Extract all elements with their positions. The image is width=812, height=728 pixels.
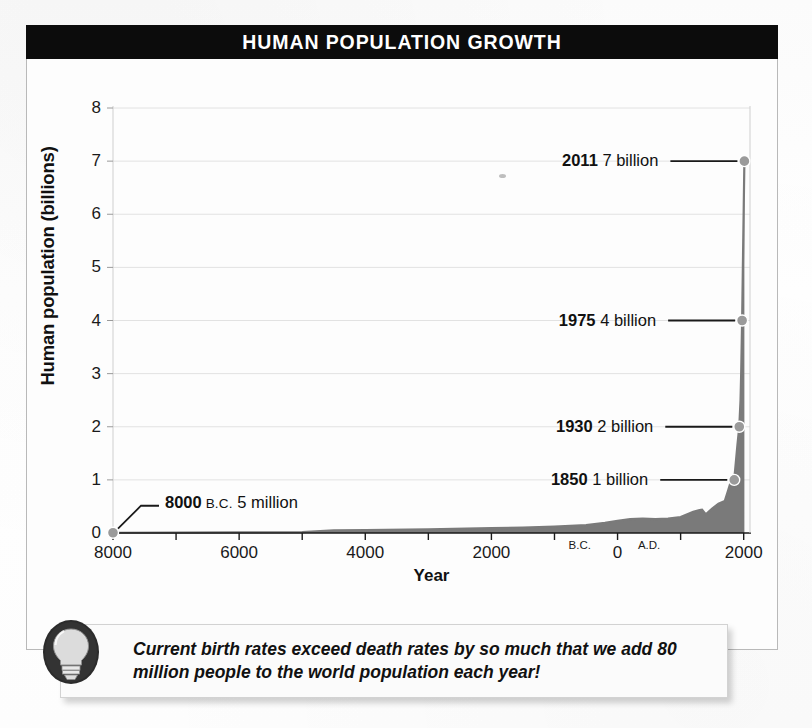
annotation-year: 1930 [556,417,593,435]
era-label-ad: A.D. [638,540,660,552]
data-point-marker [108,527,119,538]
y-tick-label: 7 [71,152,101,169]
y-tick-label: 3 [71,365,101,382]
chart-plot-area: Human population (billions) Year 0123456… [0,0,812,728]
annotation-amount: 7 billion [602,151,658,169]
annotation-year: 8000 [165,493,202,511]
caption-callout: Current birth rates exceed death rates b… [60,624,728,698]
annotation-amount: 2 billion [597,417,653,435]
data-point-marker [737,315,748,326]
y-tick-label: 6 [71,205,101,222]
y-tick-label: 5 [71,258,101,275]
x-tick-label: 0 [613,544,622,561]
lightbulb-icon [40,618,102,686]
population-area [113,161,744,533]
annotation-amount: 1 billion [592,470,648,488]
x-tick-label: 4000 [346,544,384,561]
annotation-amount: 4 billion [600,311,656,329]
annotation-era: B.C. [202,496,233,511]
x-tick-label: 2000 [725,544,763,561]
data-point-marker [729,474,740,485]
y-tick-label: 8 [71,99,101,116]
population-line [113,161,744,533]
caption-text: Current birth rates exceed death rates b… [133,638,713,684]
annotation-1850: 1850 1 billion [551,471,648,488]
data-point-marker [739,156,750,167]
x-tick-label: 2000 [472,544,510,561]
data-point-marker [734,421,745,432]
annotation-1975: 1975 4 billion [559,312,656,329]
y-tick-label: 1 [71,471,101,488]
population-growth-chart [0,0,812,728]
annotation-leader-line [118,506,159,529]
annotation-2011: 2011 7 billion [562,152,658,169]
x-axis-title: Year [113,566,750,586]
annotation-year: 2011 [562,151,598,169]
y-tick-label: 2 [71,418,101,435]
era-label-bc: B.C. [569,540,591,552]
annotation-year: 1850 [551,470,588,488]
scan-speck [499,174,506,178]
x-tick-label: 8000 [94,544,132,561]
y-tick-label: 0 [71,524,101,541]
annotation-1930: 1930 2 billion [556,418,653,435]
y-axis-title: Human population (billions) [37,106,59,426]
annotation-8000: 8000 B.C. 5 million [165,494,298,511]
x-tick-label: 6000 [220,544,258,561]
annotation-amount: 5 million [237,493,298,511]
y-tick-label: 4 [71,312,101,329]
annotation-year: 1975 [559,311,596,329]
